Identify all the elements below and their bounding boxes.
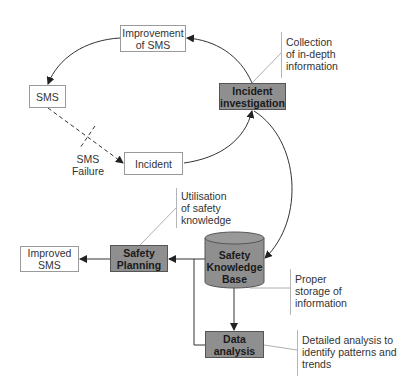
node-incident[interactable]: Incident [124,152,183,175]
node-label: Improvement [122,27,183,39]
node-label: Safety [117,247,161,259]
leader-analysis [264,345,297,350]
node-label: Data [214,333,255,345]
node-label: SMS [36,91,59,103]
node-label: Incident [220,85,285,97]
node-label: Incident [135,158,172,170]
node-incident-investigation[interactable]: Incidentinvestigation [219,83,286,110]
node-improved-sms[interactable]: ImprovedSMS [20,246,79,272]
node-data-analysis[interactable]: Dataanalysis [205,331,264,358]
annotation-utilisation: Utilisationof safetyknowledge [176,188,231,228]
edge-investigation-to-improvement [187,38,252,83]
edge-dataanalysis-to-planning [194,259,205,345]
node-label: of SMS [122,39,183,51]
annotation-analysis: Detailed analysis toidentify patterns an… [297,330,397,376]
annotation-storage: Properstorage ofinformation [290,269,347,315]
node-label: investigation [220,97,285,109]
node-label: analysis [214,345,255,357]
node-improvement-of-sms[interactable]: Improvementof SMS [120,25,186,52]
annotation-collection: Collectionof in-depthinformation [281,32,338,78]
node-label: Planning [117,259,161,271]
node-sms[interactable]: SMS [29,85,66,108]
node-label: SMS [28,259,72,271]
node-safety-planning[interactable]: SafetyPlanning [110,245,168,272]
leader-collection [252,53,281,83]
leader-utilisation [140,207,177,245]
edge-label-sms-failure: SMSFailure [68,153,108,177]
edge-incident-to-investigation [184,111,252,163]
edge-improvement-to-sms [48,38,120,84]
node-label: Improved [28,247,72,259]
node-safety-knowledge-base-label: SafetyKnowledgeBase [205,249,264,285]
